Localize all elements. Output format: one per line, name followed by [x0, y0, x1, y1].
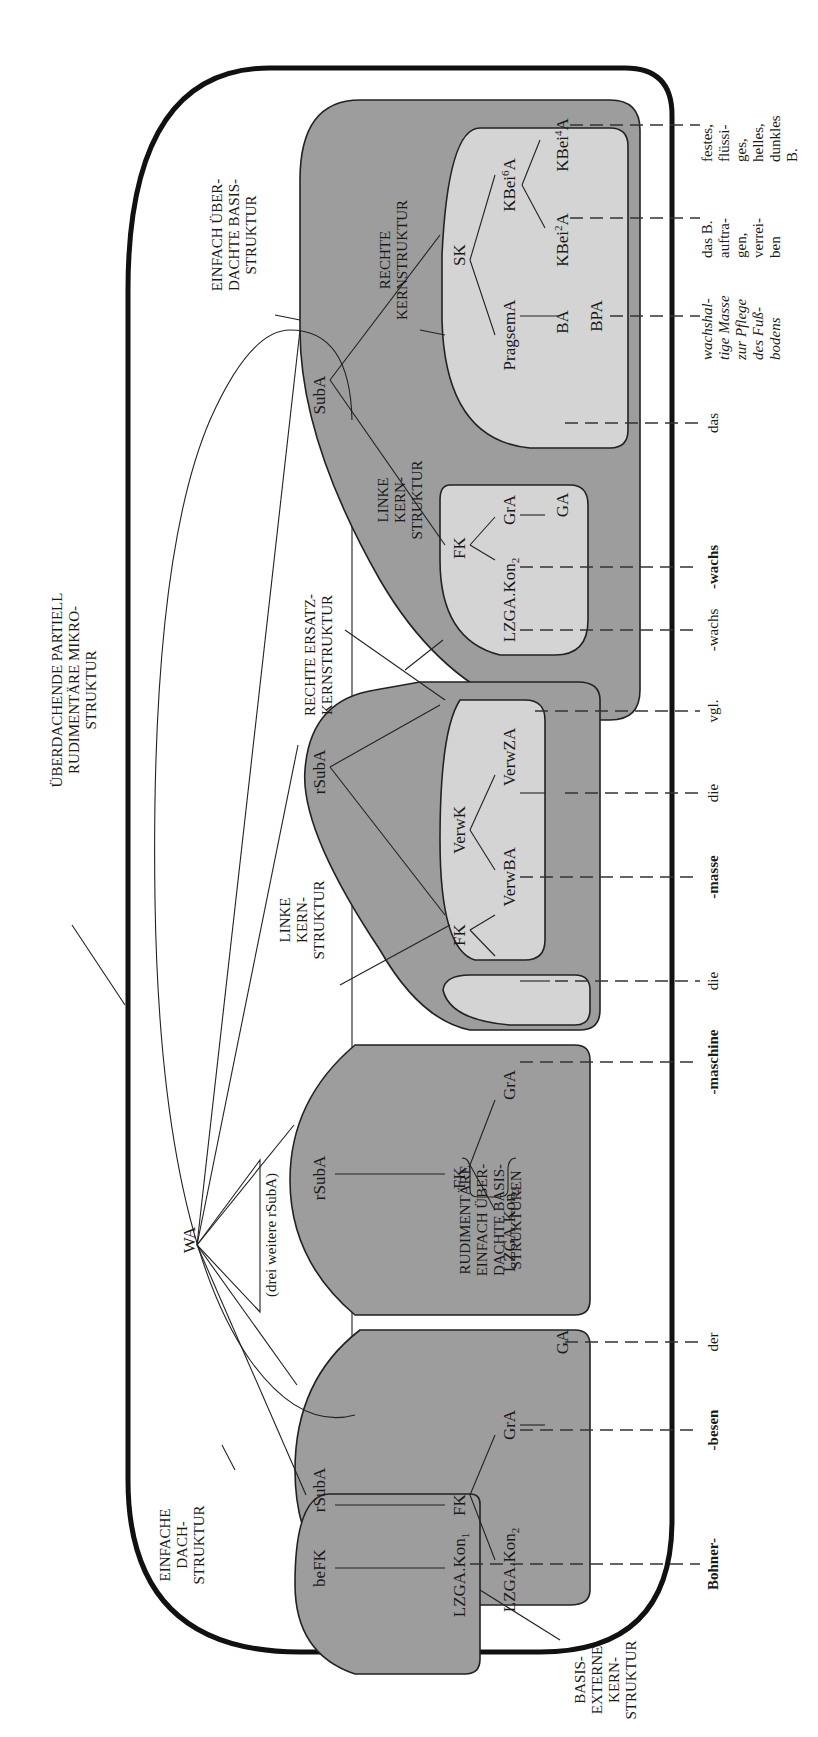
node-ga-besen: GA	[553, 1329, 572, 1354]
svg-text:STRUKTUR: STRUKTUR	[83, 650, 99, 729]
node-ga-wachs: GA	[553, 492, 572, 517]
svg-text:ges,: ges,	[733, 138, 749, 162]
label-drei-weitere: (drei weitere rSubA)	[263, 1173, 280, 1297]
word-das: das	[705, 413, 721, 433]
node-ba: BA	[553, 309, 572, 333]
svg-text:EINFACHE: EINFACHE	[157, 1508, 173, 1581]
node-lzga-maschine: LZGA.Kon2	[500, 1188, 521, 1272]
word-vgl: vgl.	[705, 700, 721, 723]
svg-text:LINKE: LINKE	[277, 898, 293, 943]
svg-text:STRUKTUR: STRUKTUR	[623, 1640, 639, 1719]
svg-text:DACH-: DACH-	[174, 1521, 190, 1569]
node-fk-besen: FK	[450, 1493, 469, 1515]
node-lzga-besen: LZGA.Kon2	[500, 1528, 521, 1612]
word-die-1: die	[705, 971, 721, 990]
svg-text:RECHTE ERSATZ-: RECHTE ERSATZ-	[302, 594, 318, 716]
node-bpa: BPA	[587, 300, 606, 332]
node-gra-besen: GrA	[500, 1409, 519, 1440]
svg-text:LINKE: LINKE	[375, 478, 391, 523]
label-einfach-ueberdachte: EINFACH ÜBER- DACHTE BASIS- STRUKTUR	[209, 179, 259, 292]
node-lzga-bohner: LZGA.Kon1	[450, 1533, 471, 1617]
svg-text:dunkles: dunkles	[767, 115, 783, 162]
svg-text:flüssi-: flüssi-	[716, 124, 732, 162]
svg-text:verrei-: verrei-	[750, 218, 766, 258]
word-masse: -masse	[705, 855, 721, 899]
node-fk-maschine: FK	[450, 1166, 469, 1188]
word-der: der	[705, 1332, 721, 1351]
svg-text:KERN-: KERN-	[294, 897, 310, 943]
svg-text:STRUKTUR: STRUKTUR	[409, 460, 425, 539]
svg-text:KERNSTRUKTUR: KERNSTRUKTUR	[319, 595, 335, 715]
right-core-light	[442, 128, 628, 448]
svg-text:EINFACH ÜBER-: EINFACH ÜBER-	[209, 179, 225, 292]
node-kbei6a: KBei6A	[499, 157, 519, 211]
svg-text:helles,: helles,	[750, 123, 766, 162]
label-ueberdachende: ÜBERDACHENDE PARTIELL RUDIMENTÄRE MIKRO-…	[49, 593, 99, 788]
svg-text:wachshal-: wachshal-	[699, 298, 715, 360]
node-verwba: VerwBA	[500, 847, 519, 907]
definition-1: wachshal- tige Masse zur Pflege des Fuß-…	[699, 295, 783, 361]
node-gra-maschine: GrA	[500, 1069, 519, 1100]
label-basis-externe: BASIS- EXTERNE KERN- STRUKTUR	[572, 1640, 639, 1719]
node-fk-wachs: FK	[450, 536, 469, 558]
node-lzga-wachs: LZGA.Kon2	[500, 558, 521, 642]
svg-text:STRUKTUR: STRUKTUR	[311, 880, 327, 959]
svg-text:STRUKTUR: STRUKTUR	[243, 195, 259, 274]
svg-text:bodens: bodens	[767, 317, 783, 360]
node-verwk: VerwK	[450, 805, 469, 854]
svg-text:des Fuß-: des Fuß-	[750, 307, 766, 360]
node-wa: WA	[180, 1226, 199, 1253]
word-bohner: Bohner-	[705, 1538, 721, 1590]
rsuba-maschine-region	[290, 1045, 590, 1315]
svg-text:gen,: gen,	[733, 233, 749, 258]
word-die-2: die	[705, 783, 721, 802]
node-suba: SubA	[310, 375, 329, 414]
node-kbei2a: KBei2A	[552, 212, 572, 266]
svg-text:RECHTE: RECHTE	[377, 231, 393, 289]
word-column: Bohner- -besen der -maschine die -masse …	[699, 115, 800, 1590]
svg-text:KERNSTRUKTUR: KERNSTRUKTUR	[394, 200, 410, 320]
node-gra-wachs: GrA	[500, 494, 519, 525]
node-kbei4a: KBei4A	[552, 117, 572, 171]
word-article-microstructure-diagram: ÜBERDACHENDE PARTIELL RUDIMENTÄRE MIKRO-…	[0, 0, 818, 1737]
svg-text:STRUKTUR: STRUKTUR	[191, 1505, 207, 1584]
node-rsuba-besen: rSubA	[310, 1467, 329, 1512]
label-rechte-ersatz: RECHTE ERSATZ- KERNSTRUKTUR	[302, 594, 335, 716]
svg-text:ben: ben	[767, 236, 783, 258]
node-sk: SK	[450, 243, 469, 265]
svg-text:EINFACH ÜBER-: EINFACH ÜBER-	[474, 1164, 490, 1277]
node-verwza: VerwZA	[500, 727, 519, 786]
svg-text:RUDIMENTÄRE MIKRO-: RUDIMENTÄRE MIKRO-	[66, 606, 82, 774]
svg-text:DACHTE BASIS-: DACHTE BASIS-	[226, 179, 242, 291]
svg-text:auftra-: auftra-	[716, 218, 732, 258]
node-pragsema: PragsemA	[500, 299, 519, 371]
word-besen: -besen	[705, 1409, 721, 1450]
definition-2: das B. auftra- gen, verrei- ben	[699, 218, 783, 258]
svg-text:tige Masse: tige Masse	[716, 295, 732, 360]
label-einfache-dach: EINFACHE DACH- STRUKTUR	[157, 1505, 207, 1584]
svg-text:ÜBERDACHENDE PARTIELL: ÜBERDACHENDE PARTIELL	[49, 593, 65, 788]
word-wachs-plain: -wachs	[705, 609, 721, 652]
svg-text:KERN-: KERN-	[392, 477, 408, 523]
word-maschine: -maschine	[705, 1029, 721, 1094]
svg-text:B.: B.	[784, 148, 800, 162]
node-befk: beFK	[310, 1548, 329, 1587]
node-fk-masse: FK	[450, 923, 469, 945]
definition-3: festes, flüssi- ges, helles, dunkles B.	[699, 115, 800, 162]
svg-text:zur Pflege: zur Pflege	[733, 298, 749, 361]
svg-text:festes,: festes,	[699, 124, 715, 162]
node-rsuba-maschine: rSubA	[310, 1155, 329, 1200]
svg-text:KERN-: KERN-	[606, 1657, 622, 1703]
svg-text:das B.: das B.	[699, 221, 715, 259]
label-linke-kern-mid: LINKE KERN- STRUKTUR	[277, 880, 327, 959]
svg-text:EXTERNE: EXTERNE	[589, 1646, 605, 1714]
node-rsuba-masse: rSubA	[310, 749, 329, 794]
word-wachs-bold: -wachs	[705, 545, 721, 589]
svg-text:BASIS-: BASIS-	[572, 1656, 588, 1704]
